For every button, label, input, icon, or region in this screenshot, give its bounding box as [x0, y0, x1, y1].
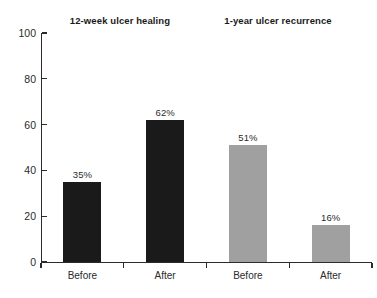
y-axis-tick [42, 78, 47, 79]
bar [63, 182, 101, 262]
y-axis-tick [42, 124, 47, 125]
x-axis-tick [289, 263, 290, 268]
x-axis-tick [40, 263, 41, 268]
x-axis-tick [371, 263, 372, 268]
x-axis-tick [123, 263, 124, 268]
bar [312, 225, 350, 262]
x-axis-tick [206, 263, 207, 268]
bar-value-label: 62% [156, 107, 175, 118]
y-axis-tick-label: 100 [4, 27, 36, 39]
y-axis-tick [42, 170, 47, 171]
y-axis-tick-label: 0 [4, 256, 36, 268]
y-axis-tick-label: 20 [4, 210, 36, 222]
bar-value-label: 51% [238, 132, 257, 143]
y-axis-line [41, 33, 42, 262]
y-axis-tick [42, 32, 47, 33]
y-axis-tick [42, 261, 47, 262]
group-title-ulcer-healing: 12-week ulcer healing [50, 15, 190, 26]
bar [229, 145, 267, 262]
y-axis-tick-label: 60 [4, 119, 36, 131]
y-axis-tick-labels: 020406080100 [0, 0, 36, 298]
bar [146, 120, 184, 262]
x-axis-category-label: Before [68, 270, 97, 281]
x-axis-category-label: After [155, 270, 176, 281]
x-axis-category-label: Before [233, 270, 262, 281]
y-axis-tick-label: 40 [4, 164, 36, 176]
bar-chart: 12-week ulcer healing 1-year ulcer recur… [0, 0, 377, 298]
bar-value-label: 35% [73, 169, 92, 180]
y-axis-tick [42, 216, 47, 217]
y-axis-tick-label: 80 [4, 73, 36, 85]
x-axis-category-label: After [320, 270, 341, 281]
bar-value-label: 16% [321, 212, 340, 223]
group-title-ulcer-recurrence: 1-year ulcer recurrence [208, 15, 348, 26]
